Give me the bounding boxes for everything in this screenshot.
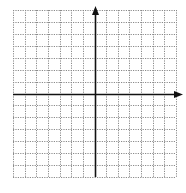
x-axis-arrow-icon	[174, 91, 183, 98]
coordinate-plane	[0, 0, 186, 193]
